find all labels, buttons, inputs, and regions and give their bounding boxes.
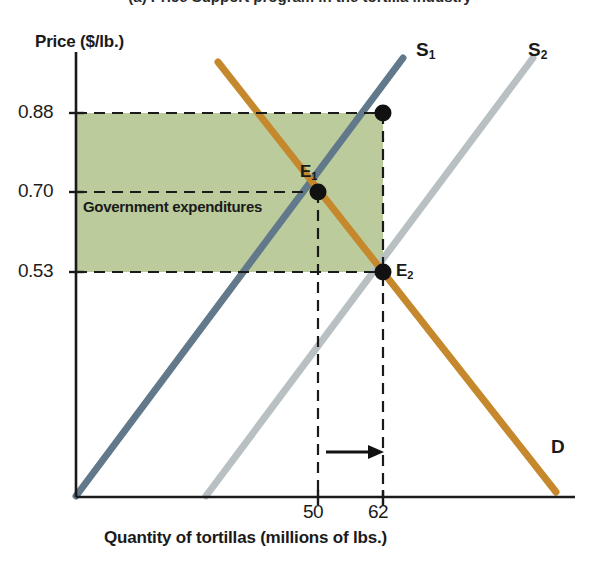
- chart-canvas: [0, 0, 600, 565]
- government-expenditures-label: Government expenditures: [83, 199, 262, 214]
- right-arrow-icon: [326, 445, 384, 459]
- curve-label-d: D: [551, 437, 565, 456]
- y-tick-label-070: 0.70: [18, 181, 53, 200]
- point-e2: [375, 264, 392, 281]
- curve-label-s1: S1: [416, 40, 435, 59]
- point-support-price: [375, 105, 392, 122]
- x-axis-title: Quantity of tortillas (millions of lbs.): [104, 529, 387, 546]
- point-e1: [310, 184, 327, 201]
- y-tick-label-088: 0.88: [18, 102, 53, 121]
- equilibrium-label-e2: E2: [396, 262, 413, 279]
- y-tick-label-053: 0.53: [18, 261, 53, 280]
- y-axis-title: Price ($/lb.): [35, 33, 124, 50]
- x-tick-label-62: 62: [368, 502, 388, 521]
- equilibrium-label-e1: E1: [300, 163, 317, 180]
- curve-label-s2: S2: [528, 40, 547, 59]
- price-support-chart: (a) Price Support program in the tortill…: [0, 0, 600, 565]
- x-tick-label-50: 50: [303, 502, 323, 521]
